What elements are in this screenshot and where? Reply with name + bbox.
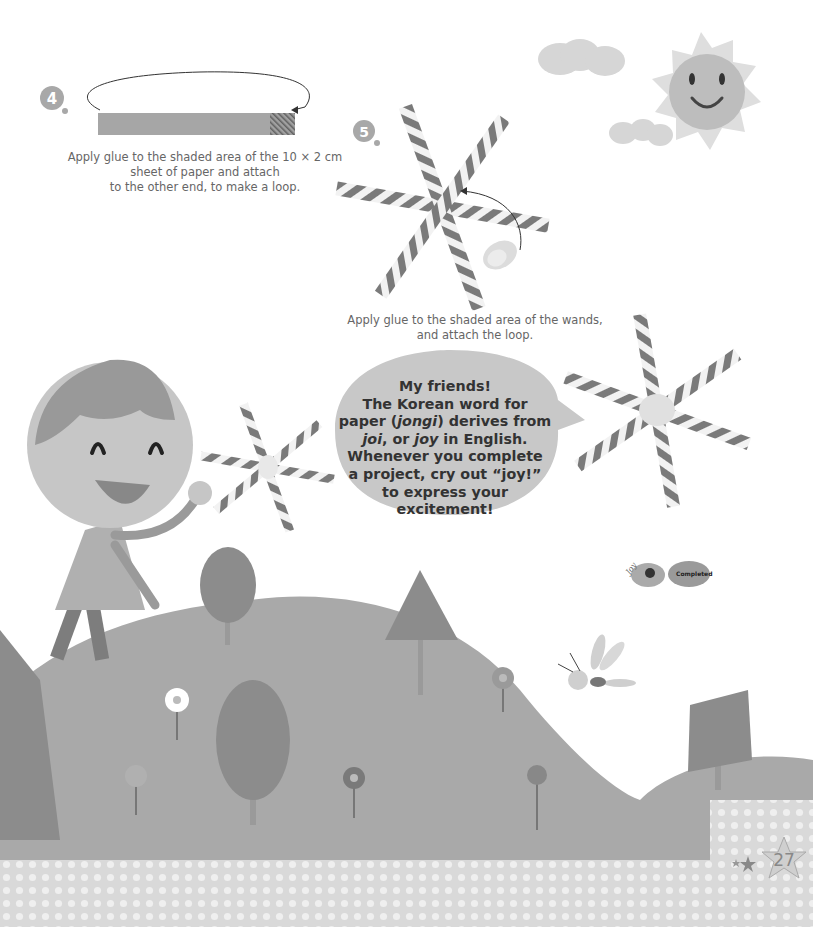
bubble-line: excitement! <box>338 501 552 519</box>
bubble-fragment: joi <box>362 431 382 447</box>
step-5-badge: 5 <box>353 120 380 146</box>
paper-strip-diagram <box>87 72 309 135</box>
completed-label: Completed <box>676 570 712 577</box>
bubble-fragment: jongi <box>397 413 437 429</box>
bubble-line: to express your <box>338 484 552 502</box>
svg-text:5: 5 <box>359 124 369 140</box>
bubble-line: The Korean word for <box>338 396 552 414</box>
step-4-badge: 4 <box>40 86 68 114</box>
dragonfly-icon <box>558 633 636 690</box>
step-5-caption: Apply glue to the shaded area of the wan… <box>325 313 625 343</box>
speech-bubble-text: My friends! The Korean word for paper (j… <box>338 378 552 519</box>
caption-line: and attach the loop. <box>325 328 625 343</box>
caption-line: Apply glue to the shaded area of the 10 … <box>60 150 350 165</box>
caption-line: sheet of paper and attach <box>60 165 350 180</box>
step-4-caption: Apply glue to the shaded area of the 10 … <box>60 150 350 195</box>
small-pinwheel <box>200 403 335 533</box>
bubble-fragment: joy <box>414 431 438 447</box>
svg-text:4: 4 <box>47 90 57 108</box>
cloud-icon <box>538 39 673 146</box>
bubble-fragment: , or <box>382 431 414 447</box>
bubble-line: a project, cry out “joy!” <box>338 466 552 484</box>
bubble-fragment: paper ( <box>339 413 397 429</box>
bubble-line: paper (jongi) derives from <box>338 413 552 431</box>
caption-line: Apply glue to the shaded area of the wan… <box>325 313 625 328</box>
caption-line: to the other end, to make a loop. <box>60 180 350 195</box>
bubble-line: Whenever you complete <box>338 448 552 466</box>
bubble-fragment: ) derives from <box>437 413 551 429</box>
bubble-fragment: in English. <box>438 431 527 447</box>
bubble-line: My friends! <box>338 378 552 396</box>
bubble-line: joi, or joy in English. <box>338 431 552 449</box>
page-number: 27 <box>764 850 804 870</box>
